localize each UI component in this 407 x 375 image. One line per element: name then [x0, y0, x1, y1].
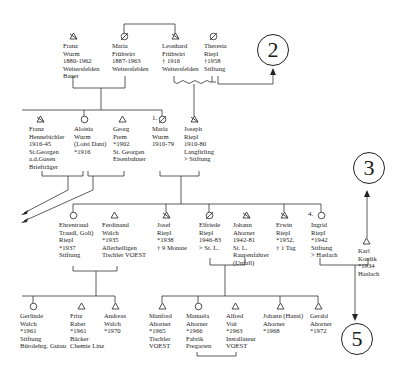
- surname: Frühwirt: [112, 50, 148, 58]
- death-note: † 9 Monate: [157, 244, 187, 252]
- circle-icon: [29, 302, 38, 311]
- person-theresia-riepl: Theresia Riepl †1958 Stiftung: [204, 33, 227, 72]
- place: Weitersfelden: [162, 65, 198, 73]
- surname: Wurm: [74, 133, 106, 141]
- surname: Walch: [20, 320, 66, 328]
- name: Manfred: [149, 312, 172, 320]
- person-maria-fruhwirt: Maria Frühwirt 1887-1963 Weitersfelden: [112, 33, 148, 72]
- place: Stiftung: [204, 65, 227, 73]
- dates: *1902: [113, 140, 146, 148]
- circle-deceased-icon: [205, 211, 214, 220]
- occupation: Raupenfahrer: [233, 251, 269, 259]
- person-manfred-ahorner: Manfred Ahorner *1965 Tischler VOEST: [149, 303, 172, 350]
- name: Aloisia: [74, 125, 106, 133]
- occupation: Briefträger: [29, 163, 65, 171]
- employer: VOEST: [149, 342, 172, 350]
- name: Georg: [113, 125, 146, 133]
- name: Leonhard: [162, 42, 198, 50]
- surname: Wurm: [63, 50, 99, 58]
- employer: VOEST: [226, 342, 256, 350]
- surname: Hennebichler: [29, 133, 65, 141]
- reference-label: 3: [364, 157, 375, 179]
- name: Theresia: [204, 42, 227, 50]
- surname: Wurm: [152, 133, 174, 141]
- surname: Frühwirt: [162, 50, 198, 58]
- place: Weitersfelden: [112, 65, 148, 73]
- occupation: Installateur: [226, 335, 256, 343]
- reference-circle-5: 5: [341, 323, 373, 355]
- person-franz-hennebichler: Franz Hennebichler 1916-45 St.Georgen a.…: [29, 116, 65, 171]
- surname: Riepl: [199, 229, 221, 237]
- place: Stiftung: [59, 251, 94, 259]
- name: Ehrentraud: [59, 221, 94, 229]
- dates: 1916-45: [29, 140, 65, 148]
- triangle-icon: [118, 115, 127, 123]
- nickname: (Loisi Dant): [74, 140, 106, 148]
- occupation: Tischler: [149, 335, 172, 343]
- place: Stiftung: [20, 335, 66, 343]
- reference-circle-2: 2: [257, 34, 289, 66]
- surname: Walch: [102, 229, 146, 237]
- surname: Ahorner: [186, 320, 211, 328]
- dates: *1916: [74, 148, 106, 156]
- place: St. Georgen: [113, 148, 146, 156]
- place: Pregarten: [186, 342, 211, 350]
- place: Haslach: [358, 270, 379, 278]
- circle-icon: [80, 115, 89, 124]
- dates: 1910-79: [152, 140, 174, 148]
- employer: Chemie Linz: [70, 342, 104, 350]
- dates: *1961: [20, 327, 66, 335]
- person-joseph-riepl: Joseph Riepl 1910-80 Langfirling > Stift…: [184, 116, 214, 163]
- circle-deceased-icon: [209, 32, 218, 41]
- relocation: > Haslach: [311, 251, 338, 259]
- surname: Riepl: [184, 133, 214, 141]
- person-johann-ahorner: Johann Ahorner 1942-81 St. L. Raupenfahr…: [233, 212, 269, 267]
- marriage-order-label: 4.: [308, 211, 313, 219]
- triangle-deceased-icon: [69, 32, 78, 40]
- person-gerlinde-walch: Gerlinde Walch *1961 Stiftung Bürolehrg.…: [20, 303, 66, 350]
- dates: 1880-1962: [63, 57, 99, 65]
- place: Stiftung: [311, 244, 338, 252]
- place: St. L.: [233, 244, 269, 252]
- dates: *1938: [157, 236, 187, 244]
- surname: Walch: [104, 320, 126, 328]
- surname: Riepl: [59, 236, 94, 244]
- name: Erwin: [276, 221, 296, 229]
- reference-label: 5: [352, 328, 363, 350]
- surname: Kordik: [358, 255, 379, 263]
- name: Franz: [63, 42, 99, 50]
- name: Gerald: [310, 312, 332, 320]
- triangle-deceased-icon: [242, 211, 251, 219]
- dates: *1966: [186, 327, 211, 335]
- occupation: Bauer: [63, 72, 99, 80]
- name: Elfriede: [199, 221, 221, 229]
- dates: †1958: [204, 57, 227, 65]
- surname: Riepl: [276, 229, 296, 237]
- dates: *1972: [310, 327, 332, 335]
- circle-icon: [317, 211, 326, 220]
- reference-circle-3: 3: [353, 152, 385, 184]
- circle-deceased-icon: [120, 32, 129, 41]
- relocation: > Stiftung: [184, 155, 214, 163]
- name: Manuela: [186, 312, 211, 320]
- triangle-deceased-icon: [162, 211, 171, 219]
- triangle-icon: [314, 302, 323, 310]
- person-johann-hansi-ahorner: Johann (Hansi) Ahorner *1968: [263, 303, 303, 335]
- place-detail: a.d.Gusen: [29, 155, 65, 163]
- triangle-deceased-icon: [280, 211, 289, 219]
- name: Ingrid: [311, 221, 338, 229]
- dates: 1910-80: [184, 140, 214, 148]
- person-andreas-walch: Andreas Walch *1970: [104, 303, 126, 335]
- occupation: Bürolehrg. Gutau: [20, 342, 66, 350]
- occupation: Tischler VOEST: [102, 251, 146, 259]
- person-erwin-riepl: Erwin Riepl *1952, † 1 Tag: [276, 212, 296, 251]
- name: Maria: [152, 125, 174, 133]
- person-maria-wurm: 1. Maria Wurm 1910-79: [152, 116, 174, 148]
- name: Gerlinde: [20, 312, 66, 320]
- dates: *1970: [104, 327, 126, 335]
- circle-icon: [69, 211, 78, 220]
- dates: † 1916: [162, 57, 198, 65]
- dates: 1942-81: [233, 236, 269, 244]
- name: Ferdinand: [102, 221, 146, 229]
- triangle-icon: [77, 302, 86, 310]
